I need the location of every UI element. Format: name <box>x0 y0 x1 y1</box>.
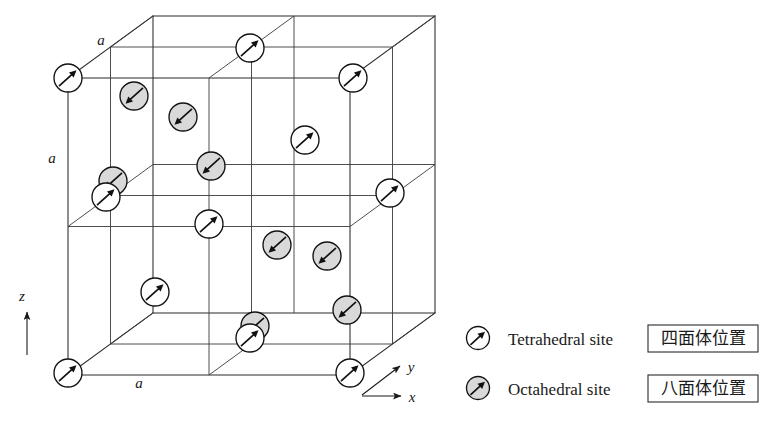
japanese-label-octahedral: 八面体位置 <box>661 378 746 398</box>
tetrahedral-site <box>195 210 223 238</box>
tetrahedral-site <box>336 359 364 387</box>
tetrahedral-site-icon-glyph <box>467 327 490 350</box>
x-axis-label: x <box>408 389 416 405</box>
octahedral-site-icon-glyph <box>467 377 490 400</box>
tetrahedral-site <box>141 278 169 306</box>
figure-background <box>0 0 778 433</box>
tetrahedral-site <box>54 64 82 92</box>
legend-label-octahedral: Octahedral site <box>508 380 610 399</box>
tetrahedral-site-icon <box>467 327 490 350</box>
octahedral-site <box>313 242 341 270</box>
tetrahedral-site <box>236 34 264 62</box>
octahedral-site <box>333 296 361 324</box>
legend-row-tetrahedral: Tetrahedral site 四面体位置 <box>467 325 759 352</box>
legend-label-tetrahedral: Tetrahedral site <box>508 330 613 349</box>
octahedral-site <box>263 231 291 259</box>
tetrahedral-site <box>54 359 82 387</box>
tetrahedral-site <box>376 179 404 207</box>
lattice-label-a-top: a <box>97 32 105 48</box>
octahedral-site <box>120 82 148 110</box>
y-axis-label: y <box>406 359 415 375</box>
octahedral-site <box>197 152 225 180</box>
octahedral-site <box>169 103 197 131</box>
octahedral-site-icon <box>467 377 490 400</box>
lattice-label-a-left: a <box>48 150 56 166</box>
tetrahedral-site <box>339 64 367 92</box>
lattice-label-a-bottom: a <box>135 375 143 391</box>
z-axis-label: z <box>18 288 25 304</box>
tetrahedral-site <box>92 183 120 211</box>
tetrahedral-site <box>236 324 264 352</box>
spinel-unit-cell-figure: a a a z y x Tetrahedral site 四面体位置 Octah… <box>0 0 778 433</box>
japanese-label-tetrahedral: 四面体位置 <box>661 328 746 348</box>
tetrahedral-site <box>291 126 319 154</box>
